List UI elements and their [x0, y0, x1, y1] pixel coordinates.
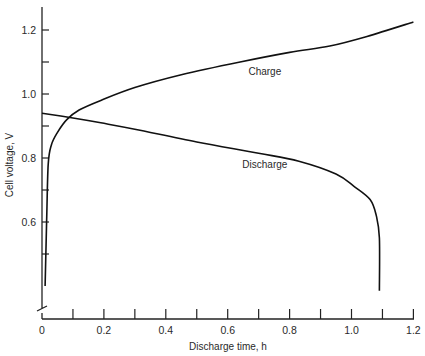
y-axis-label: Cell voltage, V: [4, 132, 15, 197]
x-tick-label: 0.4: [158, 324, 173, 336]
y-ticks: 0.60.81.01.2: [21, 24, 49, 254]
y-tick-label: 1.2: [21, 24, 36, 36]
series: [42, 22, 413, 291]
x-ticks: 00.20.40.60.81.01.2: [39, 309, 421, 336]
y-tick-label: 0.6: [21, 216, 36, 228]
x-tick-label: 1.0: [344, 324, 359, 336]
axes: [37, 7, 414, 319]
discharge-curve: [42, 113, 380, 291]
discharge-label: Discharge: [242, 159, 287, 170]
x-tick-label: 1.2: [406, 324, 421, 336]
axis-break-icon: [37, 305, 47, 319]
charge-label: Charge: [248, 66, 281, 77]
charge-curve: [45, 22, 413, 286]
x-axis-label: Discharge time, h: [189, 341, 267, 352]
x-tick-label: 0.6: [220, 324, 235, 336]
x-tick-label: 0: [39, 324, 45, 336]
y-tick-label: 0.8: [21, 152, 36, 164]
y-tick-label: 1.0: [21, 88, 36, 100]
chart: 0.60.81.01.2 00.20.40.60.81.01.2 ChargeD…: [0, 0, 425, 356]
x-tick-label: 0.8: [282, 324, 297, 336]
x-tick-label: 0.2: [97, 324, 112, 336]
